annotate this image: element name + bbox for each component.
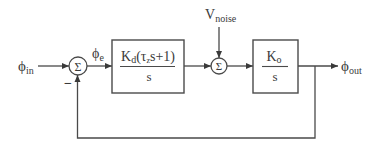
error-signal-label: ϕe: [92, 46, 104, 63]
sigma-symbol: Σ: [75, 60, 82, 74]
loop-filter-denominator: s: [146, 69, 151, 84]
oscillator-denominator: s: [272, 69, 277, 84]
block-diagram: ϕin Σ − ϕe Kd(τzs+1) s Vnoise Σ Ko s ϕou…: [0, 0, 381, 148]
oscillator-block: Ko s: [253, 40, 298, 93]
summing-junction-1: Σ: [69, 57, 87, 75]
output-signal-label: ϕout: [341, 58, 362, 76]
minus-sign: −: [64, 76, 72, 91]
sigma-symbol: Σ: [216, 60, 222, 72]
noise-signal-label: Vnoise: [205, 7, 237, 24]
loop-filter-block: Kd(τzs+1) s: [112, 40, 184, 93]
summing-junction-2: Σ: [211, 58, 227, 74]
input-signal-label: ϕin: [18, 58, 34, 76]
